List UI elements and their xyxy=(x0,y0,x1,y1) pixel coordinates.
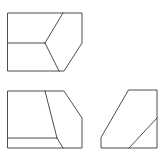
top-view-outline xyxy=(8,13,82,71)
front-view-edge xyxy=(45,91,57,138)
side-view-edge xyxy=(129,118,157,148)
top-view xyxy=(8,13,82,71)
top-view-edge xyxy=(45,43,59,71)
front-view-outline xyxy=(8,91,82,148)
front-view xyxy=(8,91,82,148)
side-view-outline xyxy=(101,90,157,148)
top-view-edge xyxy=(45,13,63,43)
orthographic-diagram xyxy=(0,0,165,158)
front-view-edge xyxy=(57,138,63,148)
side-view xyxy=(101,90,157,148)
